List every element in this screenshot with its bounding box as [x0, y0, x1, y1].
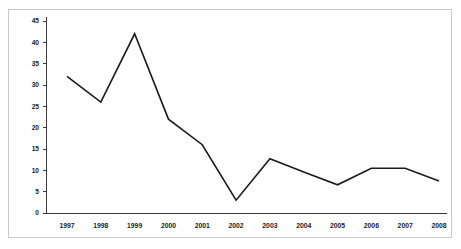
y-tick-label: 5 — [35, 188, 39, 195]
line-chart-svg: 0510152025303540451997199819992000200120… — [9, 10, 453, 239]
x-tick-label: 2005 — [330, 222, 345, 229]
x-tick-label: 2000 — [161, 222, 176, 229]
x-tick-label: 1999 — [127, 222, 142, 229]
x-tick-label: 2008 — [431, 222, 446, 229]
x-tick-label: 1997 — [59, 222, 74, 229]
x-tick-label: 2001 — [195, 222, 210, 229]
chart-figure: 0510152025303540451997199819992000200120… — [8, 9, 452, 238]
y-tick-label: 0 — [35, 209, 39, 216]
y-tick-label: 25 — [32, 103, 40, 110]
y-tick-label: 30 — [32, 81, 40, 88]
x-tick-label: 2006 — [364, 222, 379, 229]
y-tick-label: 45 — [32, 17, 40, 24]
x-tick-label: 2004 — [296, 222, 311, 229]
plot-area: 0510152025303540451997199819992000200120… — [9, 10, 451, 237]
x-tick-label: 2002 — [229, 222, 244, 229]
y-tick-label: 10 — [32, 167, 40, 174]
y-tick-label: 35 — [32, 60, 40, 67]
y-tick-label: 15 — [32, 145, 40, 152]
data-series-line — [67, 34, 439, 200]
y-tick-label: 20 — [32, 124, 40, 131]
x-tick-label: 1998 — [93, 222, 108, 229]
x-tick-label: 2003 — [262, 222, 277, 229]
x-tick-label: 2007 — [398, 222, 413, 229]
y-tick-label: 40 — [32, 39, 40, 46]
